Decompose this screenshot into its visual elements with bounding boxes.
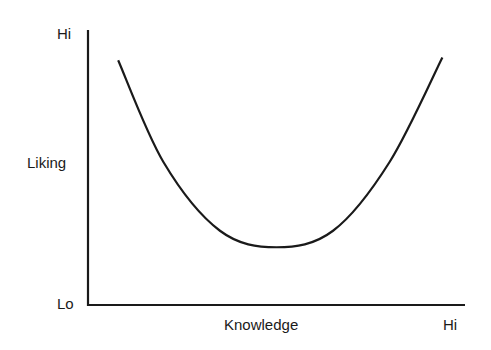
origin-label: Lo xyxy=(57,295,74,312)
series-curve xyxy=(118,58,442,248)
x-tick-high-label: Hi xyxy=(443,316,457,333)
chart: Hi Liking Lo Knowledge Hi xyxy=(0,0,491,350)
y-axis-label: Liking xyxy=(27,154,66,171)
y-tick-high-label: Hi xyxy=(57,25,71,42)
x-axis-label: Knowledge xyxy=(224,316,298,333)
